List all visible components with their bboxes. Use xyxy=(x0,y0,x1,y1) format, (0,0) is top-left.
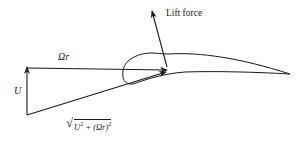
radicand-omega-r: + (Ωr) xyxy=(83,122,108,132)
airfoil-velocity-diagram xyxy=(0,0,303,142)
rotational-velocity-arrow xyxy=(27,68,167,70)
exponent-omega-r: 2 xyxy=(108,121,111,127)
radicand: U2 + (Ωr)2 xyxy=(74,119,111,132)
rotational-velocity-label: Ωr xyxy=(58,52,69,62)
square-root-expression: √ U2 + (Ωr)2 xyxy=(66,119,111,132)
lift-force-label: Lift force xyxy=(166,9,202,19)
axial-velocity-label: U xyxy=(14,86,21,96)
lift-force-arrow xyxy=(152,11,167,67)
airfoil-shape xyxy=(123,53,290,84)
resultant-velocity-arrow xyxy=(27,72,166,115)
radical-sign-icon: √ xyxy=(66,116,73,129)
resultant-velocity-label: √ U2 + (Ωr)2 xyxy=(66,119,111,132)
